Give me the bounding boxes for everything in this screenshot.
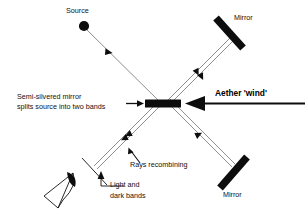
beam-splitter-label-line1: Semi-silvered mirror <box>17 92 82 101</box>
source-ray <box>85 28 161 103</box>
rays-recombining-label: Rays recombining <box>130 160 188 169</box>
bands-label-line1: Light and <box>110 180 140 189</box>
source-point <box>79 21 89 31</box>
aether-wind-arrow <box>185 96 305 111</box>
source-label: Source <box>66 6 89 15</box>
mirror-bar-top-right <box>216 18 243 48</box>
beam-splitter-pointer-arrow <box>126 100 144 106</box>
viewing-screen-bar <box>82 158 107 185</box>
mirror-bar-bottom-right <box>220 157 247 188</box>
diagram-canvas: Source Mirror Mirror Aether 'wind' Semi-… <box>0 0 307 219</box>
beam-splitter-label-line2: splits source into two bands <box>17 102 106 111</box>
mirror-top-label: Mirror <box>234 13 253 22</box>
interferometer-figure: Source Mirror Mirror Aether 'wind' Semi-… <box>0 0 307 219</box>
aether-wind-label: Aether 'wind' <box>215 88 267 98</box>
semi-silvered-mirror-bar <box>145 100 181 108</box>
mirror-bottom-label: Mirror <box>223 190 242 199</box>
bands-label-line2: dark bands <box>110 191 146 200</box>
observer-eye <box>44 172 76 208</box>
